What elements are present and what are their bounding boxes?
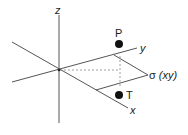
point-p-label: P [115, 27, 122, 39]
origin-point [58, 69, 61, 72]
plane-name: (xy) [159, 69, 178, 81]
point-t-label: T [126, 89, 133, 101]
point-p [115, 40, 123, 48]
plane-label: σ(xy) [149, 69, 177, 81]
x-axis [12, 42, 128, 108]
projection-diagram: z y x P T σ(xy) [0, 0, 188, 135]
plane-edge-upper [114, 55, 148, 75]
point-t [115, 91, 123, 99]
sigma-symbol: σ [149, 69, 156, 81]
y-axis-label: y [139, 42, 147, 54]
plane-edge-lower [96, 75, 148, 90]
x-axis-label: x [129, 104, 136, 116]
z-axis-label: z [54, 4, 61, 16]
